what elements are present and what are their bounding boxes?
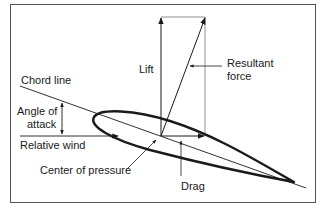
lift-label: Lift bbox=[139, 63, 154, 75]
resultant-label-line2: force bbox=[227, 70, 251, 82]
resultant-force-arrow bbox=[161, 18, 205, 136]
relative-wind-label: Relative wind bbox=[20, 139, 85, 151]
chord-line-label: Chord line bbox=[21, 74, 71, 86]
angle-of-attack-label-line2: attack bbox=[27, 118, 57, 130]
drag-label: Drag bbox=[181, 180, 205, 192]
angle-of-attack-label-line1: Angle of bbox=[17, 105, 58, 117]
airfoil-diagram: Lift Resultant force Chord line Angle of… bbox=[0, 0, 321, 214]
resultant-label-line1: Resultant bbox=[227, 57, 273, 69]
center-of-pressure-label: Center of pressure bbox=[40, 164, 131, 176]
